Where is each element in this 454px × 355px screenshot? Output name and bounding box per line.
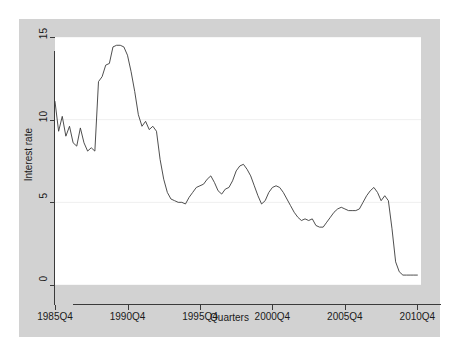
gridlines [55, 37, 421, 285]
interest-rate-series-line [55, 45, 417, 275]
interest-rate-line-chart [55, 37, 421, 285]
y-axis-tick [50, 202, 55, 203]
x-axis-title: Quarters [19, 312, 440, 323]
y-axis-tick-label: 0 [38, 276, 49, 282]
y-axis-tick [50, 285, 55, 286]
x-axis-tick [345, 305, 346, 310]
x-axis-tick [55, 305, 56, 310]
x-axis-tick [200, 305, 201, 310]
x-axis-tick [417, 305, 418, 310]
y-axis-line [54, 51, 55, 305]
y-axis-tick [50, 120, 55, 121]
graph-region: 051015 1985Q41990Q41995Q42000Q42005Q4201… [19, 19, 440, 337]
plot-area [55, 37, 421, 285]
y-axis-tick-label: 5 [38, 193, 49, 199]
chart-figure: 051015 1985Q41990Q41995Q42000Q42005Q4201… [0, 0, 454, 355]
y-axis-tick-label: 10 [38, 111, 49, 122]
y-axis-tick-label: 15 [38, 28, 49, 39]
y-axis-title: Interest rate [23, 128, 34, 181]
y-axis-tick [50, 37, 55, 38]
x-axis-tick [128, 305, 129, 310]
x-axis-tick [272, 305, 273, 310]
